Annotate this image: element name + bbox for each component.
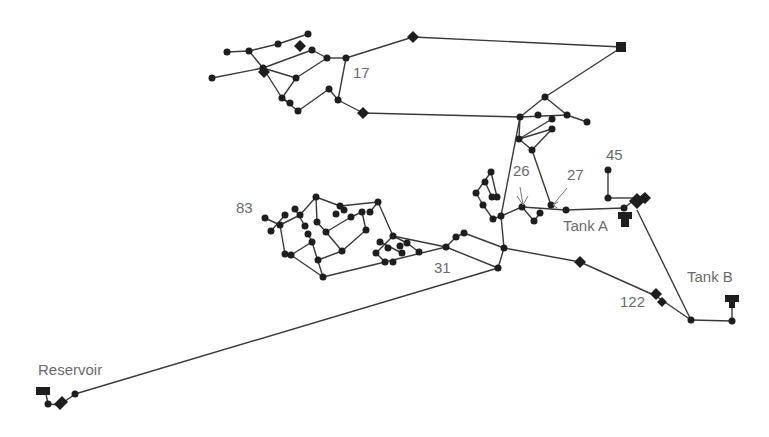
tank-a-label: Tank A — [563, 217, 608, 234]
node-122-label: 122 — [620, 293, 645, 310]
node-31-label: 31 — [434, 259, 451, 276]
pump-icon — [616, 42, 626, 52]
node-45-label: 45 — [606, 146, 623, 163]
network-diagram — [0, 0, 769, 437]
node-83-label: 83 — [236, 199, 253, 216]
valve-icon — [574, 256, 586, 268]
node-26-label: 26 — [513, 162, 530, 179]
node-27-label: 27 — [567, 166, 584, 183]
node-17-label: 17 — [353, 64, 370, 81]
valve-icon — [54, 396, 68, 410]
reservoir-icon — [36, 387, 50, 395]
pipes — [46, 34, 732, 405]
tank-b-label: Tank B — [687, 268, 733, 285]
reservoir-label: Reservoir — [38, 361, 102, 378]
valve-icon — [357, 107, 369, 119]
valve-icon — [407, 31, 419, 43]
valve-icon — [294, 40, 306, 52]
tank-b-icon — [725, 295, 739, 308]
tank-a-icon — [618, 212, 632, 227]
